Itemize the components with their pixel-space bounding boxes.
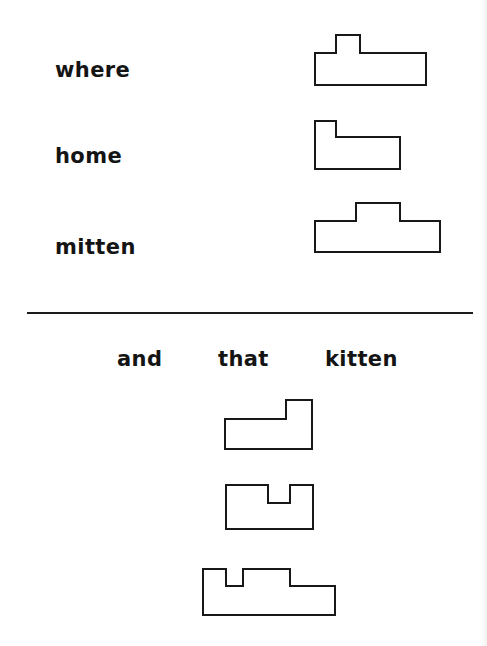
answer-shape-2 (226, 485, 313, 529)
answer-shape-3 (203, 569, 335, 615)
where-word-shape (315, 35, 426, 85)
answer-shape-1 (225, 400, 312, 449)
home-word-shape (315, 121, 400, 169)
mitten-word-shape (315, 203, 440, 252)
word-shapes-canvas (0, 0, 487, 646)
